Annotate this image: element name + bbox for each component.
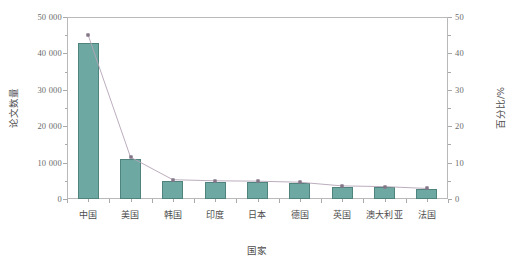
x-tick-label: 英国 <box>333 208 351 221</box>
line-marker <box>341 184 344 187</box>
y-tick-mark-right-minor <box>448 35 451 36</box>
y-tick-mark-left <box>63 17 67 18</box>
line-marker <box>129 156 132 159</box>
x-tick-label: 印度 <box>206 208 224 221</box>
y-tick-mark-left <box>63 90 67 91</box>
y-tick-mark-left-minor <box>65 181 68 182</box>
y-tick-label-right: 10 <box>455 158 464 168</box>
line-marker <box>256 180 259 183</box>
y-tick-mark-left <box>63 163 67 164</box>
x-tick-mark <box>363 199 364 203</box>
y-tick-mark-right-minor <box>448 181 451 182</box>
x-tick-mark <box>448 199 449 203</box>
x-tick-mark-minor <box>173 199 174 202</box>
y-tick-label-left: 0 <box>18 194 62 204</box>
x-tick-mark-minor <box>427 199 428 202</box>
bar <box>332 187 353 199</box>
y-tick-mark-right <box>448 163 452 164</box>
x-tick-mark-minor <box>88 199 89 202</box>
x-tick-label: 法国 <box>418 208 436 221</box>
x-tick-label: 澳大利亚 <box>366 208 403 221</box>
y-tick-mark-left-minor <box>65 144 68 145</box>
y-tick-mark-left <box>63 126 67 127</box>
line-marker <box>298 181 301 184</box>
y-tick-mark-right-minor <box>448 108 451 109</box>
x-tick-label: 中国 <box>79 208 97 221</box>
x-tick-label: 日本 <box>248 208 266 221</box>
y-axis-title-right: 百分比/% <box>493 87 507 129</box>
y-tick-mark-right <box>448 53 452 54</box>
x-tick-mark-minor <box>385 199 386 202</box>
y-tick-mark-left <box>63 53 67 54</box>
y-tick-label-right: 40 <box>455 48 464 58</box>
x-tick-mark <box>67 199 68 203</box>
x-tick-label: 德国 <box>291 208 309 221</box>
x-tick-mark-minor <box>215 199 216 202</box>
x-tick-mark <box>152 199 153 203</box>
y-tick-mark-right-minor <box>448 144 451 145</box>
bar <box>374 187 395 199</box>
x-tick-mark-minor <box>258 199 259 202</box>
y-tick-label-right: 50 <box>455 12 464 22</box>
x-tick-mark <box>236 199 237 203</box>
line-marker <box>425 187 428 190</box>
y-tick-label-right: 30 <box>455 85 464 95</box>
y-tick-mark-right <box>448 126 452 127</box>
y-tick-label-left: 10 000 <box>18 158 62 168</box>
y-tick-label-left: 30 000 <box>18 85 62 95</box>
x-tick-mark-minor <box>131 199 132 202</box>
y-tick-mark-right-minor <box>448 72 451 73</box>
bar <box>416 189 437 199</box>
bar <box>162 181 183 199</box>
x-tick-mark <box>321 199 322 203</box>
bar <box>78 43 99 199</box>
x-axis-title: 国家 <box>247 243 267 257</box>
line-marker <box>383 185 386 188</box>
bar <box>247 182 268 199</box>
y-tick-mark-left-minor <box>65 108 68 109</box>
y-tick-mark-left-minor <box>65 72 68 73</box>
bar <box>289 183 310 199</box>
bar <box>205 182 226 199</box>
y-tick-mark-left-minor <box>65 35 68 36</box>
y-tick-label-right: 20 <box>455 121 464 131</box>
x-tick-mark <box>194 199 195 203</box>
x-tick-mark <box>279 199 280 203</box>
chart-figure: 论文数量 百分比/% 国家 010 00020 00030 00040 0005… <box>0 0 514 262</box>
line-marker <box>87 34 90 37</box>
x-tick-label: 韩国 <box>164 208 182 221</box>
bar <box>120 159 141 199</box>
y-tick-label-left: 20 000 <box>18 121 62 131</box>
y-tick-label-right: 0 <box>455 194 459 204</box>
x-tick-mark-minor <box>300 199 301 202</box>
line-marker <box>214 179 217 182</box>
y-tick-mark-right <box>448 17 452 18</box>
x-tick-mark-minor <box>342 199 343 202</box>
x-tick-mark <box>109 199 110 203</box>
line-marker <box>171 178 174 181</box>
y-tick-label-left: 40 000 <box>18 48 62 58</box>
y-tick-label-left: 50 000 <box>18 12 62 22</box>
x-tick-mark <box>406 199 407 203</box>
x-tick-label: 美国 <box>121 208 139 221</box>
y-tick-mark-right <box>448 90 452 91</box>
